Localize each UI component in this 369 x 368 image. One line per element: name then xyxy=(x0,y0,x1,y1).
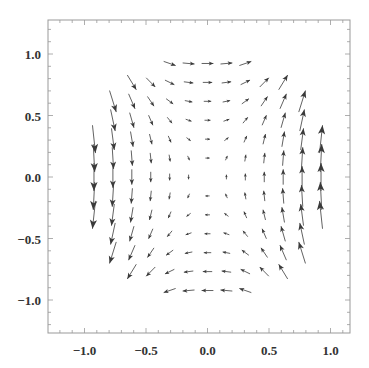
vector-arrow xyxy=(299,166,305,188)
vector-arrow xyxy=(129,245,135,260)
y-tick-label: 0.5 xyxy=(25,109,42,124)
vector-arrow xyxy=(260,78,269,87)
vector-arrow xyxy=(205,232,211,235)
vector-arrow xyxy=(244,193,247,200)
vector-arrow xyxy=(186,138,190,141)
vector-arrow xyxy=(129,207,134,222)
vector-arrow xyxy=(242,250,249,255)
vector-arrow xyxy=(147,248,154,258)
x-tick-label: −1.0 xyxy=(73,343,97,358)
vector-arrow xyxy=(203,270,212,273)
vector-arrow xyxy=(224,119,230,122)
vector-arrow xyxy=(239,288,251,293)
vector-arrow xyxy=(224,213,228,216)
vector-arrow xyxy=(204,251,211,254)
vector-arrow xyxy=(225,156,227,160)
vector-arrow xyxy=(205,214,210,217)
vector-arrow xyxy=(299,91,306,113)
y-tick-label: −0.5 xyxy=(17,232,41,247)
vector-arrow xyxy=(223,100,230,103)
vector-arrow xyxy=(130,132,135,147)
vector-arrow xyxy=(260,267,269,276)
vector-arrow xyxy=(281,132,286,147)
vector-arrow xyxy=(262,172,266,182)
vector-arrow xyxy=(225,175,228,180)
vector-arrow xyxy=(184,270,193,273)
vector-arrow xyxy=(127,75,136,90)
axis-ticks xyxy=(48,20,350,333)
vector-arrow xyxy=(110,147,116,169)
vector-arrow xyxy=(130,150,135,165)
vector-arrow xyxy=(110,166,116,188)
vector-arrow xyxy=(243,231,248,237)
vector-arrow xyxy=(168,212,171,219)
vector-arrow xyxy=(242,99,249,104)
vector-arrow xyxy=(202,61,214,65)
vector-arrow xyxy=(280,94,286,109)
vector-arrow xyxy=(262,115,266,125)
vector-arrow xyxy=(244,212,247,219)
vector-arrow xyxy=(168,155,171,162)
vector-arrow xyxy=(280,226,285,241)
vector-arrow xyxy=(262,210,266,220)
vector-arrow xyxy=(224,138,228,141)
vector-arrow xyxy=(281,207,286,222)
vector-arrow xyxy=(279,75,288,90)
vector-arrow xyxy=(110,91,117,113)
vector-arrow xyxy=(168,193,171,200)
vector-arrow xyxy=(168,174,171,181)
y-tick-label: 1.0 xyxy=(25,47,41,62)
vector-arrow xyxy=(243,117,248,123)
vector-arrow xyxy=(187,156,189,160)
vector-arrow xyxy=(147,96,154,106)
vector-arrow xyxy=(188,194,190,198)
vector-arrow xyxy=(224,232,230,235)
vector-arrow xyxy=(204,100,211,103)
x-tick-label: −0.5 xyxy=(134,343,158,358)
vector-arrow xyxy=(186,213,190,216)
vector-arrow xyxy=(281,188,286,203)
vector-arrow xyxy=(220,288,232,292)
vector-arrow xyxy=(129,226,134,241)
x-tick-label: 0.5 xyxy=(261,343,278,358)
vector-arrow xyxy=(185,251,192,254)
vector-arrow xyxy=(109,223,115,245)
vector-arrow xyxy=(187,175,190,180)
vector-arrow xyxy=(186,232,192,235)
y-tick-label: 0.0 xyxy=(25,170,41,185)
vector-arrow xyxy=(165,80,174,85)
vector-arrow xyxy=(184,81,193,84)
vector-arrow xyxy=(110,185,116,207)
vector-arrow xyxy=(239,61,251,66)
vector-arrow xyxy=(298,223,304,245)
y-axis-tick-labels: −1.0−0.50.00.51.0 xyxy=(17,47,41,308)
vector-arrow xyxy=(263,153,267,163)
vector-arrow xyxy=(281,169,286,184)
vector-arrow xyxy=(109,242,116,264)
vector-arrow xyxy=(220,61,232,65)
vector-arrow xyxy=(149,172,153,182)
vector-arrow xyxy=(164,61,176,66)
vector-arrow xyxy=(261,96,268,106)
vector-arrow xyxy=(299,147,305,169)
vector-arrow xyxy=(298,242,305,264)
vector-arrow xyxy=(261,248,268,258)
vector-arrow xyxy=(129,94,135,109)
vector-arrow xyxy=(263,134,267,144)
vector-arrow xyxy=(186,119,192,122)
vector-arrow xyxy=(149,229,153,239)
vector-arrow xyxy=(149,134,153,144)
vector-arrow xyxy=(110,128,116,150)
vector-arrow xyxy=(183,62,195,66)
x-axis-tick-labels: −1.0−0.50.00.51.0 xyxy=(73,343,339,358)
vector-arrow xyxy=(280,245,286,260)
vector-arrow xyxy=(146,267,155,276)
vector-arrow xyxy=(166,250,173,255)
vector-arrow xyxy=(111,109,117,131)
vector-arrow xyxy=(222,270,231,273)
vector-arrow xyxy=(149,210,153,220)
vector-arrow xyxy=(300,128,306,150)
vector-arrow xyxy=(149,153,153,163)
vector-arrow xyxy=(205,157,209,159)
vector-arrow xyxy=(223,251,230,254)
